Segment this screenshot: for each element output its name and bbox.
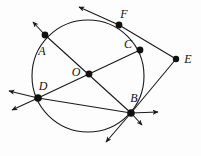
point-dot-f <box>116 22 123 29</box>
ray-f-upleft <box>79 7 119 25</box>
ray-b-right <box>131 112 158 113</box>
point-dot-d <box>34 94 42 102</box>
point-label-c: C <box>124 38 132 50</box>
point-dot-b <box>127 109 135 117</box>
point-label-o: O <box>72 66 81 78</box>
geometry-canvas <box>0 0 201 156</box>
point-dot-a <box>42 32 49 39</box>
point-label-e: E <box>184 53 191 65</box>
ray-d-upleft <box>9 91 38 98</box>
point-label-f: F <box>120 8 127 20</box>
ray-d-downleft <box>12 98 38 110</box>
point-label-a: A <box>38 45 45 57</box>
point-dot-e <box>173 56 179 62</box>
point-dot-o <box>86 71 93 78</box>
geometry-figure: A F C E O D B <box>0 0 201 156</box>
point-dot-c <box>137 47 144 54</box>
point-label-d: D <box>39 80 48 92</box>
point-label-b: B <box>130 92 137 104</box>
segment-secant-be <box>131 59 176 113</box>
